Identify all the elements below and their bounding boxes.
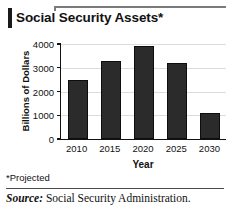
bar-2010 [68, 80, 88, 139]
chart-figure: Social Security Assets* Billions of Doll… [0, 0, 230, 211]
bar-slot [193, 44, 226, 139]
source-divider [6, 188, 224, 189]
bar-slot [61, 44, 94, 139]
title-accent-bar [8, 8, 12, 28]
plot-area: 01000200030004000 [60, 44, 226, 140]
bar-2015 [101, 61, 121, 139]
source-text: Social Security Administration. [46, 192, 191, 204]
x-axis-tick-label: 2010 [60, 143, 93, 154]
chart-title: Social Security Assets* [16, 8, 222, 28]
x-axis-tick-label: 2030 [193, 143, 226, 154]
y-axis-tick-label: 1000 [24, 110, 54, 121]
y-axis-tick-label: 4000 [24, 39, 54, 50]
y-axis-tick-label: 2000 [24, 86, 54, 97]
y-axis-tick-label: 3000 [24, 62, 54, 73]
source-line: Source: Social Security Administration. [6, 192, 191, 204]
y-axis-tick-label: 0 [24, 134, 54, 145]
bar-series [61, 44, 226, 139]
x-axis-tick-label: 2015 [93, 143, 126, 154]
bar-2025 [167, 63, 187, 139]
bar-2020 [134, 46, 154, 139]
x-axis-label: Year [60, 159, 226, 170]
x-axis-tick-label: 2020 [126, 143, 159, 154]
bar-slot [160, 44, 193, 139]
source-label: Source: [6, 192, 43, 204]
bar-2030 [200, 113, 220, 139]
x-axis-tick-label: 2025 [160, 143, 193, 154]
bar-slot [94, 44, 127, 139]
footnote: *Projected [6, 172, 50, 183]
bar-slot [127, 44, 160, 139]
x-axis-tick-labels: 20102015202020252030 [60, 143, 226, 154]
